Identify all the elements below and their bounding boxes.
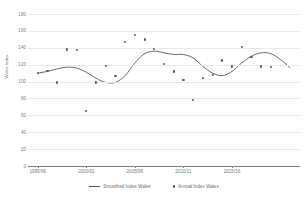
gridline bbox=[28, 48, 300, 49]
legend-label-annual: Annual Index Wales bbox=[178, 184, 219, 189]
x-axis-tick-label: 2010/11 bbox=[175, 169, 191, 174]
y-axis-tick-label: 60 bbox=[2, 113, 26, 118]
y-axis-tick-label: 0 bbox=[2, 164, 26, 169]
legend-item-annual: Annual Index Wales bbox=[173, 184, 219, 189]
x-axis-tick-label: 2015/16 bbox=[224, 169, 241, 174]
y-axis-tick-label: 80 bbox=[2, 96, 26, 101]
gridline bbox=[28, 31, 300, 32]
x-axis-tick-mark bbox=[232, 166, 233, 168]
gridline bbox=[28, 115, 300, 116]
chart-legend: Smoothed Index Wales Annual Index Wales bbox=[0, 184, 308, 189]
y-axis-tick-label: 20 bbox=[2, 147, 26, 152]
plot-area: 020406080100120140160180 bbox=[28, 14, 300, 166]
x-axis-tick-label: 2005/06 bbox=[127, 169, 144, 174]
smoothed-line-path bbox=[38, 51, 291, 83]
legend-label-smoothed: Smoothed Index Wales bbox=[103, 184, 150, 189]
x-axis-tick-mark bbox=[86, 166, 87, 168]
x-axis-tick-label: 1995/96 bbox=[29, 169, 46, 174]
y-axis-title: Wales Index bbox=[4, 43, 9, 91]
x-axis-tick-mark bbox=[135, 166, 136, 168]
smoothed-index-line bbox=[28, 14, 300, 166]
x-axis-tick-mark bbox=[183, 166, 184, 168]
gridline bbox=[28, 132, 300, 133]
dot-swatch-icon bbox=[173, 185, 175, 187]
x-axis-tick-label: 2000/01 bbox=[78, 169, 95, 174]
y-axis-tick-label: 40 bbox=[2, 130, 26, 135]
gridline bbox=[28, 14, 300, 15]
y-axis-tick-label: 180 bbox=[2, 12, 26, 17]
x-axis-tick-mark bbox=[38, 166, 39, 168]
line-swatch-icon bbox=[89, 186, 100, 187]
gridline bbox=[28, 98, 300, 99]
x-axis-line bbox=[28, 166, 300, 167]
chart-container: 020406080100120140160180 Wales Index Smo… bbox=[0, 0, 308, 203]
gridline bbox=[28, 149, 300, 150]
gridline bbox=[28, 82, 300, 83]
legend-item-smoothed: Smoothed Index Wales bbox=[89, 184, 150, 189]
y-axis-tick-label: 160 bbox=[2, 28, 26, 33]
